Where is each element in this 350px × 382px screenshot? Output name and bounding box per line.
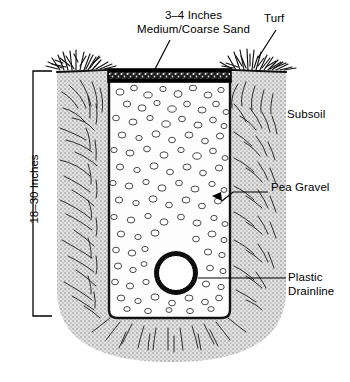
label-sand-line1: 3–4 Inches [137, 9, 250, 23]
leader-turf [258, 30, 276, 58]
label-subsoil: Subsoil [287, 108, 325, 122]
label-plastic-drainline: Plastic Drainline [288, 271, 334, 298]
label-drainline-line1: Plastic [288, 271, 334, 285]
trench-cross-section-diagram: 3–4 Inches Medium/Coarse Sand Turf Subso… [0, 0, 350, 382]
leader-sand [155, 40, 170, 69]
label-sand-depth: 3–4 Inches Medium/Coarse Sand [137, 9, 250, 36]
plastic-drainline-pipe [154, 251, 198, 295]
label-drainline-line2: Drainline [288, 285, 334, 299]
label-trench-depth: 18–30 Inches [28, 134, 40, 244]
label-turf: Turf [264, 12, 284, 26]
label-sand-line2: Medium/Coarse Sand [137, 23, 250, 37]
label-pea-gravel: Pea Gravel [271, 181, 330, 195]
sand-cap-layer [108, 69, 231, 82]
